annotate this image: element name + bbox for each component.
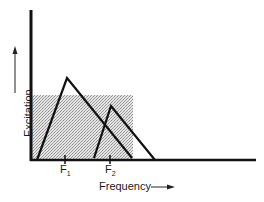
tick-label-f1-name: F bbox=[60, 163, 67, 175]
arrow-right-icon bbox=[167, 185, 175, 190]
tick-label-f1: F1 bbox=[60, 163, 71, 177]
shaded-region bbox=[31, 95, 133, 160]
y-axis-label: Excitation bbox=[22, 65, 34, 137]
arrow-up-icon bbox=[13, 46, 18, 54]
tick-label-f2-sub: 2 bbox=[112, 170, 116, 177]
x-axis-label: Frequency bbox=[99, 180, 151, 192]
tick-label-f2: F2 bbox=[105, 163, 116, 177]
tick-label-f2-name: F bbox=[105, 163, 112, 175]
tick-label-f1-sub: 1 bbox=[67, 170, 71, 177]
excitation-diagram bbox=[0, 0, 264, 202]
